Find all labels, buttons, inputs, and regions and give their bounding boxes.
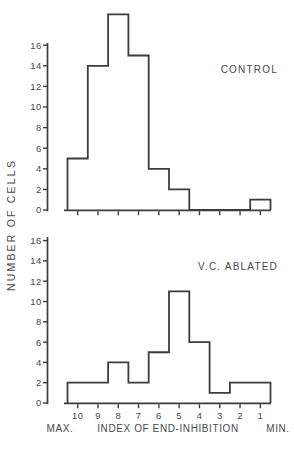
y-tick-label-control: 0 — [36, 204, 42, 215]
x-tick-label: 4 — [197, 410, 203, 421]
y-tick-label-vc-ablated: 16 — [30, 235, 41, 246]
y-tick-label-vc-ablated: 12 — [30, 276, 41, 287]
x-axis-label: INDEX OF END-INHIBITION — [68, 423, 268, 434]
x-tick-label: 5 — [176, 410, 182, 421]
y-tick-label-vc-ablated: 4 — [36, 357, 42, 368]
y-tick-label-control: 2 — [36, 184, 42, 195]
x-tick-label: 1 — [258, 410, 264, 421]
y-axis-label: NUMBER OF CELLS — [5, 150, 17, 300]
y-tick-label-vc-ablated: 0 — [36, 397, 42, 408]
y-tick-label-control: 14 — [30, 60, 41, 71]
x-tick-label: 9 — [95, 410, 101, 421]
panel-title-control: CONTROL — [151, 64, 278, 75]
panel-title-vc-ablated: V.C. ABLATED — [151, 261, 278, 272]
y-tick-label-control: 8 — [36, 122, 42, 133]
y-tick-label-control: 10 — [30, 101, 41, 112]
y-tick-label-control: 6 — [36, 143, 42, 154]
y-tick-label-control: 4 — [36, 163, 42, 174]
y-tick-label-vc-ablated: 2 — [36, 377, 42, 388]
y-tick-label-vc-ablated: 14 — [30, 255, 41, 266]
histogram-outline-vc-ablated — [68, 291, 271, 403]
x-axis-min-label: MIN. — [258, 423, 294, 434]
y-tick-label-vc-ablated: 8 — [36, 316, 42, 327]
y-tick-label-vc-ablated: 10 — [30, 296, 41, 307]
figure: 0246810121416024681012141610987654321 NU… — [0, 0, 294, 451]
histogram-outline-control — [68, 14, 271, 210]
x-tick-label: 3 — [217, 410, 223, 421]
y-tick-label-vc-ablated: 6 — [36, 337, 42, 348]
x-tick-label: 2 — [237, 410, 243, 421]
y-tick-label-control: 16 — [30, 40, 41, 51]
y-tick-label-control: 12 — [30, 81, 41, 92]
x-tick-label: 8 — [115, 410, 121, 421]
x-tick-label: 6 — [156, 410, 162, 421]
x-tick-label: 7 — [136, 410, 142, 421]
x-tick-label: 10 — [72, 410, 83, 421]
